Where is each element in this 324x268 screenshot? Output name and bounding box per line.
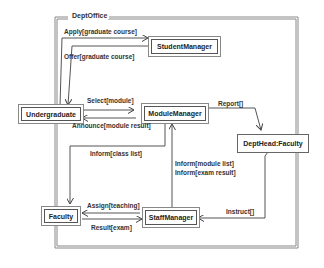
label-inform-exam: Inform[exam result] [175, 169, 236, 176]
node-undergraduate[interactable]: Undergraduate [21, 107, 81, 121]
label-apply: Apply[graduate course] [64, 28, 137, 35]
label-result: Result[exam] [91, 224, 132, 231]
label-instruct: Instruct[] [226, 208, 254, 215]
node-staff-manager[interactable]: StaffManager [145, 210, 197, 225]
inform-class-connector [70, 123, 165, 204]
label-announce: Announce[module result] [72, 122, 151, 129]
frame-title: DeptOffice [70, 12, 109, 19]
label-inform-class: Inform[class list] [90, 150, 142, 157]
label-assign: Assign[teaching] [87, 202, 140, 209]
node-module-manager[interactable]: ModuleManager [144, 106, 206, 121]
label-select: Select[module] [87, 97, 134, 104]
label-report: Report[] [218, 100, 243, 107]
apply-connector [60, 38, 148, 106]
label-offer: Offer[graduate course] [64, 53, 134, 60]
label-inform-module: Inform[module list] [175, 160, 234, 167]
node-student-manager[interactable]: StudentManager [151, 39, 218, 54]
node-dept-head[interactable]: DeptHead:Faculty [237, 134, 309, 153]
report-connector [205, 108, 261, 130]
diagram-canvas: DeptOffice StudentManager Undergraduate … [0, 0, 324, 268]
node-faculty[interactable]: Faculty [44, 209, 78, 223]
